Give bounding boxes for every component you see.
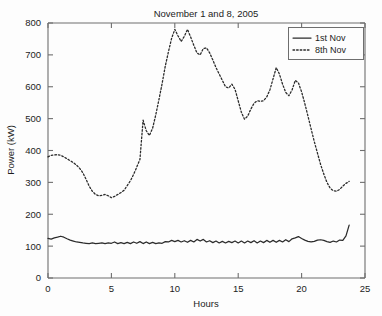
x-tick-group: 0510152025 (45, 23, 370, 294)
y-tick-label: 200 (25, 209, 41, 220)
y-tick-label: 500 (25, 113, 41, 124)
x-tick-label: 10 (170, 283, 181, 294)
legend-label-8th-nov: 8th Nov (315, 45, 347, 55)
y-tick-label: 0 (36, 272, 41, 283)
y-tick-label: 600 (25, 81, 41, 92)
x-axis-label: Hours (193, 298, 219, 309)
series-line-1st-nov (48, 225, 349, 243)
chart-title: November 1 and 8, 2005 (154, 8, 259, 19)
x-tick-label: 15 (233, 283, 244, 294)
power-line-chart: November 1 and 8, 2005 01002003004005006… (0, 0, 382, 316)
figure-canvas: November 1 and 8, 2005 01002003004005006… (0, 0, 382, 316)
data-series-group (48, 29, 349, 243)
x-tick-label: 0 (45, 283, 50, 294)
y-tick-label: 100 (25, 241, 41, 252)
chart-legend: 1st Nov 8th Nov (289, 28, 364, 60)
x-tick-label: 5 (109, 283, 114, 294)
legend-label-1st-nov: 1st Nov (315, 33, 346, 43)
y-tick-label: 800 (25, 17, 41, 28)
x-tick-label: 25 (360, 283, 371, 294)
x-tick-label: 20 (296, 283, 307, 294)
y-tick-label: 700 (25, 49, 41, 60)
y-tick-label: 400 (25, 145, 41, 156)
y-axis-label: Power (kW) (5, 125, 16, 175)
y-tick-label: 300 (25, 177, 41, 188)
